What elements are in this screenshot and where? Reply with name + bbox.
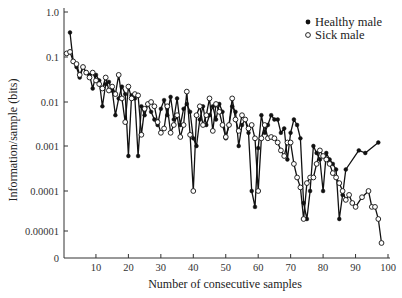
sick-male-point	[330, 171, 335, 176]
sick-male-point	[97, 82, 102, 87]
axes: 1.00.10.010.0010.00010.00001010203040506…	[25, 7, 396, 274]
y-tick-label: 0.0001	[30, 186, 59, 197]
sick-male-point	[168, 130, 173, 135]
sick-male-point	[292, 162, 297, 167]
sick-male-point	[279, 148, 284, 153]
healthy-male-point	[169, 95, 173, 99]
healthy-male-point	[247, 131, 251, 135]
sick-male-point	[314, 162, 319, 167]
sick-male-point	[366, 189, 371, 194]
healthy-male-point	[240, 123, 244, 127]
legend: Healthy male Sick male	[306, 15, 383, 42]
healthy-male-point	[282, 127, 286, 131]
sick-male-point	[194, 113, 199, 118]
sick-male-point	[301, 217, 306, 222]
sick-male-point	[142, 106, 147, 111]
healthy-male-point	[250, 189, 254, 193]
sick-male-point	[220, 123, 225, 128]
sick-male-point	[191, 189, 196, 194]
sick-male-point	[165, 104, 170, 109]
sick-male-point	[353, 205, 358, 210]
sick-male-point	[240, 113, 245, 118]
x-tick-label: 100	[380, 262, 396, 273]
sick-male-point	[327, 162, 332, 167]
sick-male-point	[282, 154, 287, 159]
plot-area	[64, 31, 384, 246]
healthy-male-point	[302, 201, 306, 205]
y-tick-label: 1.0	[46, 7, 59, 18]
healthy-male-point	[188, 110, 192, 114]
healthy-male-point	[337, 217, 341, 221]
sick-male-point	[136, 93, 141, 98]
sick-male-point	[324, 157, 329, 162]
sick-male-point	[123, 120, 128, 125]
x-tick-label: 60	[253, 262, 264, 273]
healthy-male-point	[191, 136, 195, 140]
sick-male-point	[113, 92, 118, 97]
sick-male-point	[275, 140, 280, 145]
healthy-male-point	[295, 123, 299, 127]
healthy-male-point	[230, 104, 234, 108]
sick-male-point	[379, 241, 384, 246]
x-tick-label: 50	[221, 262, 232, 273]
sick-male-point	[217, 109, 222, 114]
sick-male-point	[90, 70, 95, 75]
healthy-male-point	[149, 110, 153, 114]
sick-male-point	[77, 73, 82, 78]
healthy-male-point	[68, 31, 72, 35]
sick-male-point	[288, 140, 293, 145]
x-tick-label: 80	[318, 262, 329, 273]
sick-male-point	[340, 189, 345, 194]
healthy-male-point	[276, 118, 280, 122]
sick-male-point	[204, 113, 209, 118]
healthy-male-point	[286, 158, 290, 162]
healthy-male-point	[123, 92, 127, 96]
healthy-male-point	[318, 158, 322, 162]
healthy-male-point	[107, 80, 111, 84]
legend-label-healthy: Healthy male	[315, 15, 382, 29]
sick-male-point	[201, 123, 206, 128]
healthy-male-point	[234, 110, 238, 114]
healthy-male-point	[101, 104, 105, 108]
sick-male-point	[120, 96, 125, 101]
sick-male-point	[376, 217, 381, 222]
sick-male-point	[334, 175, 339, 180]
healthy-male-point	[159, 107, 163, 111]
healthy-male-point	[312, 144, 316, 148]
sick-male-point	[214, 102, 219, 107]
sick-male-point	[347, 193, 352, 198]
healthy-male-point	[292, 118, 296, 122]
healthy-male-point	[289, 131, 293, 135]
healthy-male-point	[334, 168, 338, 172]
sick-male-point	[81, 65, 86, 70]
sick-male-point	[162, 126, 167, 131]
healthy-male-point	[363, 151, 367, 155]
sick-male-point	[149, 100, 154, 105]
healthy-male-point	[136, 154, 140, 158]
sick-male-point	[243, 117, 248, 122]
y-tick-label: 0	[54, 253, 59, 264]
sick-male-point	[74, 62, 79, 67]
healthy-male-point	[172, 118, 176, 122]
sick-male-point	[272, 136, 277, 141]
sick-male-point	[223, 135, 228, 140]
y-tick-label: 0.1	[46, 52, 59, 63]
x-axis-title: Number of consecutive samples	[148, 277, 302, 291]
x-tick-label: 70	[285, 262, 296, 273]
y-tick-label: 0.001	[35, 141, 59, 152]
healthy-male-point	[165, 113, 169, 117]
x-tick-label: 20	[123, 262, 134, 273]
sick-male-point	[295, 175, 300, 180]
healthy-male-point	[185, 102, 189, 106]
sick-male-point	[311, 175, 316, 180]
y-tick-label: 0.00001	[25, 226, 59, 237]
sick-male-point	[129, 96, 134, 101]
sick-male-point	[175, 113, 180, 118]
sick-male-point	[343, 198, 348, 203]
sick-male-line	[67, 52, 382, 243]
healthy-male-marker-icon	[306, 20, 311, 25]
sick-male-point	[262, 123, 267, 128]
healthy-male-point	[143, 113, 147, 117]
healthy-male-point	[91, 87, 95, 91]
healthy-male-point	[182, 107, 186, 111]
